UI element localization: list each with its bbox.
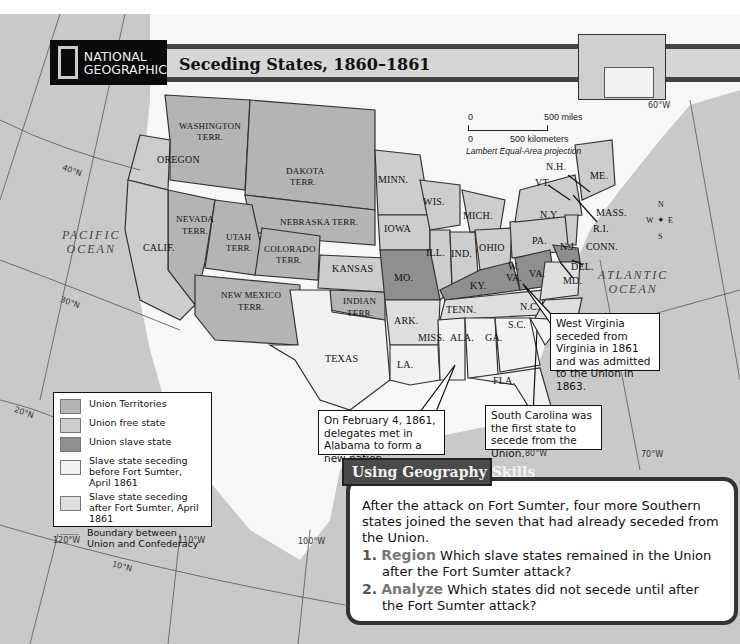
map-figure: Seceding States, 1860–1861 NATIONAL GEOG… bbox=[0, 0, 740, 644]
region-washington-terr bbox=[165, 95, 250, 190]
national-geographic-logo: NATIONAL GEOGRAPHIC bbox=[50, 40, 167, 85]
label-pennsylvania: PA. bbox=[532, 236, 547, 246]
label-california: CALIF. bbox=[143, 243, 175, 253]
lon-100w-label: 100°W bbox=[298, 537, 325, 546]
region-dakota-terr bbox=[245, 100, 375, 210]
locator-inset-map bbox=[578, 34, 666, 100]
label-dakota-terr: TERR. bbox=[290, 178, 316, 187]
map-legend: Union Territories Union free state Union… bbox=[53, 392, 212, 527]
publisher-name: NATIONAL GEOGRAPHIC bbox=[84, 50, 167, 76]
legend-item: Slave state seceding before Fort Sumter,… bbox=[60, 455, 205, 488]
publisher-line-1: NATIONAL bbox=[84, 50, 167, 63]
legend-label: Union slave state bbox=[89, 436, 171, 447]
scale-line bbox=[468, 125, 548, 131]
question-keyword: Region bbox=[381, 547, 436, 563]
callout-west-virginia: West Virginia seceded from Virginia in 1… bbox=[550, 313, 660, 371]
label-iowa: IOWA bbox=[384, 224, 411, 234]
legend-label: Union free state bbox=[89, 417, 165, 428]
question-keyword: Analyze bbox=[381, 581, 443, 597]
label-utah: UTAH bbox=[226, 233, 251, 242]
legend-swatch-seceding-after bbox=[60, 496, 81, 511]
label-washington: WASHINGTON bbox=[179, 122, 241, 131]
label-connecticut: CONN. bbox=[586, 242, 618, 252]
scale-bar: 0 500 miles 0 500 kilometers Lambert Equ… bbox=[466, 112, 606, 162]
skills-question-2: 2. Analyze Which states did not secede u… bbox=[362, 581, 722, 614]
label-indian: INDIAN bbox=[343, 297, 376, 306]
label-maryland: MD. bbox=[563, 276, 582, 286]
label-wisconsin: WIS. bbox=[423, 197, 445, 207]
label-ohio: OHIO bbox=[479, 243, 505, 253]
compass-n: N bbox=[658, 200, 664, 209]
label-louisiana: LA. bbox=[397, 360, 413, 370]
label-south-carolina: S.C. bbox=[508, 320, 526, 330]
label-kentucky: KY. bbox=[470, 281, 486, 291]
lon-60w-label: 60°W bbox=[648, 101, 670, 110]
label-new-mexico-terr: TERR. bbox=[238, 303, 264, 312]
label-new-jersey: N.J. bbox=[560, 242, 577, 252]
callout-alabama: On February 4, 1861, delegates met in Al… bbox=[318, 410, 445, 455]
label-arkansas: ARK. bbox=[394, 316, 418, 326]
label-delaware: DEL. bbox=[571, 262, 594, 272]
projection-label: Lambert Equal-Area projection bbox=[466, 146, 581, 156]
label-minnesota: MINN. bbox=[378, 175, 408, 185]
label-georgia: GA. bbox=[485, 333, 503, 343]
skills-question-1: 1. Region Which slave states remained in… bbox=[362, 547, 722, 580]
atlantic-ocean-label: ATLANTICOCEAN bbox=[598, 268, 668, 297]
label-massachusetts: MASS. bbox=[596, 208, 627, 218]
scale-miles-end: 500 miles bbox=[544, 112, 583, 122]
legend-label: Slave state seceding before Fort Sumter,… bbox=[89, 455, 205, 488]
locator-extent-box bbox=[604, 67, 654, 98]
label-oregon: OREGON bbox=[157, 155, 200, 165]
label-dakota: DAKOTA bbox=[286, 167, 324, 176]
label-michigan: MICH. bbox=[463, 211, 493, 221]
region-colorado-terr bbox=[255, 228, 320, 280]
label-nevada: NEVADA bbox=[176, 215, 214, 224]
label-new-hampshire: N.H. bbox=[546, 162, 566, 172]
skills-intro: After the attack on Fort Sumter, four mo… bbox=[362, 498, 722, 546]
legend-swatch-union-free bbox=[60, 418, 81, 433]
geography-skills-box: After the attack on Fort Sumter, four mo… bbox=[346, 477, 738, 625]
legend-swatch-union-territories bbox=[60, 399, 81, 414]
top-margin bbox=[0, 0, 740, 14]
region-alabama bbox=[465, 318, 498, 378]
legend-label: Boundary between Union and Confederacy bbox=[87, 527, 205, 549]
legend-item: Boundary between Union and Confederacy bbox=[60, 527, 205, 549]
label-mississippi: MISS. bbox=[418, 333, 445, 343]
label-indian-terr: TERR. bbox=[347, 309, 373, 318]
compass-w: W bbox=[646, 216, 654, 225]
legend-label: Union Territories bbox=[89, 398, 167, 409]
label-alabama: ALA. bbox=[450, 333, 474, 343]
compass-s: S bbox=[658, 232, 662, 241]
label-colorado-terr: TERR. bbox=[276, 256, 302, 265]
label-nebraska-terr: NEBRASKA TERR. bbox=[280, 218, 358, 227]
compass-rose-icon: N W ✦ E S bbox=[646, 200, 676, 242]
label-florida: FLA. bbox=[493, 376, 515, 386]
label-west-virginia-2: VA. bbox=[506, 273, 522, 283]
label-rhode-island: R.I. bbox=[593, 224, 609, 234]
label-new-york: N.Y. bbox=[540, 210, 559, 220]
publisher-line-2: GEOGRAPHIC bbox=[84, 63, 167, 76]
pacific-ocean-label: PACIFICOCEAN bbox=[62, 228, 120, 257]
legend-label: Slave state seceding after Fort Sumter, … bbox=[89, 491, 205, 524]
legend-boundary-line-icon bbox=[60, 527, 79, 535]
scale-km-start: 0 bbox=[468, 134, 473, 144]
legend-item: Union Territories bbox=[60, 398, 205, 414]
label-missouri: MO. bbox=[394, 273, 413, 283]
label-north-carolina: N.C. bbox=[520, 302, 540, 312]
label-utah-terr: TERR. bbox=[226, 244, 252, 253]
lon-70w-label: 70°W bbox=[641, 450, 663, 459]
legend-item: Union free state bbox=[60, 417, 205, 433]
scale-km-end: 500 kilometers bbox=[510, 134, 569, 144]
label-maine: ME. bbox=[590, 171, 608, 181]
label-kansas: KANSAS bbox=[332, 264, 373, 274]
label-nevada-terr: TERR. bbox=[182, 227, 208, 236]
label-virginia: VA. bbox=[529, 269, 545, 279]
skills-heading: Using Geography Skills bbox=[342, 458, 492, 486]
label-tennessee: TENN. bbox=[446, 305, 476, 315]
legend-swatch-seceding-before bbox=[60, 460, 81, 475]
label-new-mexico: NEW MEXICO bbox=[221, 291, 281, 300]
label-indiana: IND. bbox=[451, 249, 472, 259]
label-texas: TEXAS bbox=[325, 354, 358, 364]
label-vermont: VT. bbox=[535, 178, 551, 188]
map-title: Seceding States, 1860–1861 bbox=[179, 55, 430, 74]
